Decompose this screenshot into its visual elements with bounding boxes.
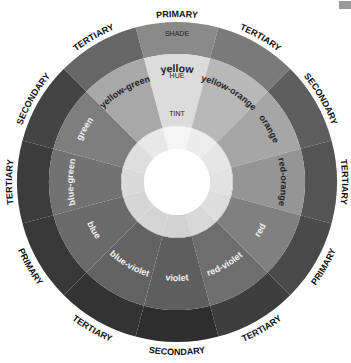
ring-label-tint: TINT [169,110,185,117]
segment-blue-green-shade [17,141,53,224]
corner-chip [339,1,351,9]
color-wheel: yellowyellow-orangeorangered-orangeredre… [0,0,351,363]
ring-label-hue: HUE [170,72,185,79]
category-label-violet: SECONDARY [148,345,206,357]
hue-label-violet: violet [165,272,189,283]
segment-violet-shade [136,306,219,342]
category-label-yellow: PRIMARY [156,9,199,20]
segment-yellow-shade [136,22,219,58]
ring-label-shade: SHADE [165,30,189,37]
category-label-blue-green: TERTIARY [4,159,16,206]
segment-red-orange-shade [301,141,337,224]
wheel-center [144,149,210,215]
category-label-red-orange: TERTIARY [339,159,351,206]
